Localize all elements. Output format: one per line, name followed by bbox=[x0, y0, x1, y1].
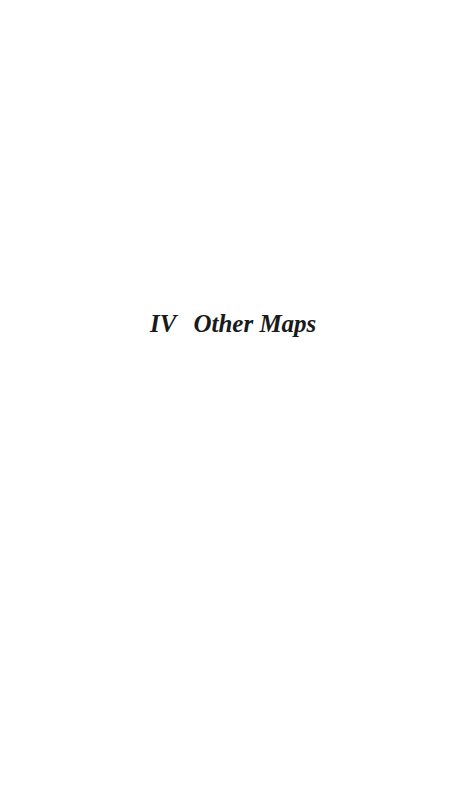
part-title: Other Maps bbox=[193, 309, 316, 339]
document-page: IVOther Maps bbox=[0, 0, 471, 805]
part-heading: IVOther Maps bbox=[150, 309, 316, 339]
part-number: IV bbox=[150, 309, 176, 339]
